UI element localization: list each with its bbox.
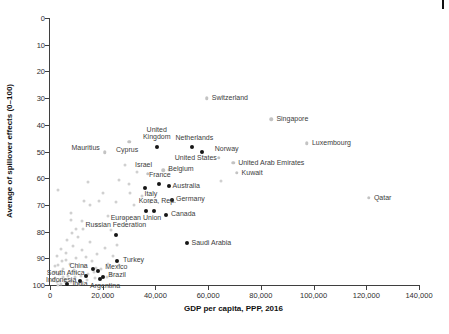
background-data-point	[60, 247, 63, 250]
x-axis-title: GDP per capita, PPP, 2016	[49, 304, 418, 313]
background-data-point	[106, 214, 109, 217]
data-point-belgium	[162, 169, 166, 173]
data-point-kuwait	[235, 171, 239, 175]
x-tick	[155, 285, 156, 290]
x-tick	[208, 285, 209, 290]
background-data-point	[114, 201, 117, 204]
y-tick-label: 60	[21, 174, 45, 183]
y-tick-label: 40	[21, 120, 45, 129]
background-data-point	[82, 227, 85, 230]
background-data-point	[141, 194, 144, 197]
y-tick	[45, 98, 50, 99]
background-data-point	[75, 227, 78, 230]
x-tick-label: 140,000	[405, 291, 432, 300]
background-data-point	[80, 249, 83, 252]
background-data-point	[80, 219, 83, 222]
background-data-point	[83, 199, 86, 202]
country-label: United Arab Emirates	[238, 159, 304, 167]
country-label: United Kingdom	[143, 126, 171, 141]
plot-area: 0102030405060708090100020,00040,00060,00…	[49, 18, 419, 286]
x-tick-label: 40,000	[144, 291, 167, 300]
country-label: Turkey	[123, 256, 144, 264]
y-tick-label: 70	[21, 200, 45, 209]
background-data-point	[69, 278, 72, 281]
country-label: Kuwait	[242, 169, 263, 177]
background-data-point	[93, 277, 96, 280]
country-label: Germany	[176, 195, 205, 203]
y-tick-label: 80	[21, 227, 45, 236]
data-point-united-arab-emirates	[231, 161, 235, 165]
x-tick	[419, 285, 420, 290]
background-data-point	[69, 218, 72, 221]
country-label: Cyprus	[116, 146, 138, 154]
data-point-saudi-arabia	[185, 241, 189, 245]
background-data-point	[84, 255, 87, 258]
x-tick-label: 100,000	[300, 291, 327, 300]
country-label: Singapore	[276, 115, 308, 123]
data-point-united-kingdom	[155, 145, 159, 149]
background-data-point	[104, 246, 107, 249]
background-data-point	[53, 265, 56, 268]
data-point-south-africa	[84, 274, 88, 278]
background-data-point	[62, 267, 65, 270]
data-point-germany	[170, 198, 174, 202]
data-point-italy	[143, 186, 147, 190]
country-label: Switzerland	[212, 95, 248, 103]
y-tick-label: 0	[21, 14, 45, 23]
y-tick-label: 30	[21, 94, 45, 103]
data-point-israel	[146, 172, 150, 176]
background-data-point	[122, 217, 125, 220]
data-point-russian-federation	[114, 233, 118, 237]
spillover-scatter-figure: Average of spillover effects (0–100) 010…	[0, 0, 449, 334]
background-data-point	[117, 178, 120, 181]
background-data-point	[66, 238, 69, 241]
x-tick	[366, 285, 367, 290]
country-label: Italy	[144, 190, 157, 198]
background-data-point	[109, 229, 112, 232]
data-point-european-union	[144, 209, 148, 213]
x-tick-label: 60,000	[197, 291, 220, 300]
data-point-qatar	[367, 196, 371, 200]
background-data-point	[57, 284, 60, 287]
background-data-point	[61, 275, 64, 278]
background-data-point	[70, 281, 73, 284]
background-data-point	[75, 257, 78, 260]
background-data-point	[65, 258, 68, 261]
data-point-argentina	[98, 277, 102, 281]
y-tick	[45, 232, 50, 233]
background-data-point	[88, 241, 91, 244]
y-tick-label: 100	[21, 281, 45, 290]
background-data-point	[71, 245, 74, 248]
background-data-point	[98, 199, 101, 202]
country-label: European Union	[111, 214, 162, 222]
background-data-point	[85, 278, 88, 281]
y-tick	[45, 178, 50, 179]
data-point-korea-rep-	[152, 209, 156, 213]
data-point-singapore	[270, 117, 274, 121]
data-point-netherlands	[190, 145, 194, 149]
data-point-mauritius	[103, 151, 107, 155]
background-data-point	[79, 274, 82, 277]
background-data-point	[52, 278, 55, 281]
background-data-point	[117, 263, 120, 266]
y-tick-label: 50	[21, 147, 45, 156]
x-tick	[314, 285, 315, 290]
background-data-point	[128, 182, 131, 185]
background-data-point	[56, 254, 59, 257]
country-label: Mauritius	[71, 145, 99, 153]
data-point-canada	[164, 213, 168, 217]
y-tick	[45, 152, 50, 153]
country-label: Russian Federation	[86, 221, 147, 229]
background-data-point	[88, 203, 91, 206]
data-point-mexico	[96, 269, 100, 273]
y-tick-label: 90	[21, 254, 45, 263]
y-tick-label: 10	[21, 40, 45, 49]
y-tick	[45, 71, 50, 72]
data-point-united-states	[200, 150, 204, 154]
data-point-india	[65, 282, 69, 286]
y-tick	[45, 125, 50, 126]
data-point-china	[91, 267, 95, 271]
x-tick	[103, 285, 104, 290]
country-label: Canada	[171, 210, 196, 218]
background-data-point	[54, 270, 57, 273]
